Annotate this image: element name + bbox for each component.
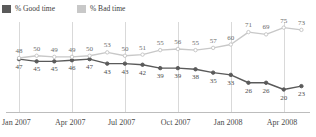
marker-bad [17, 56, 20, 59]
data-label-good-9: 39 [174, 73, 181, 80]
marker-bad [194, 48, 197, 51]
marker-bad [264, 33, 267, 36]
data-label-bad-5: 53 [104, 42, 111, 49]
chart-legend: % Good time % Bad time [2, 2, 147, 16]
marker-bad [123, 54, 126, 57]
marker-bad [247, 30, 250, 33]
marker-bad [35, 54, 38, 57]
marker-good [247, 81, 250, 84]
data-label-good-2: 45 [51, 66, 58, 73]
data-label-good-3: 46 [68, 65, 75, 72]
marker-good [300, 84, 303, 87]
data-label-bad-12: 60 [227, 35, 234, 42]
series-lines [0, 22, 316, 112]
axis-baseline [6, 112, 310, 113]
data-label-bad-8: 55 [157, 40, 164, 47]
marker-bad [211, 46, 214, 49]
legend-label-bad-time: % Bad time [90, 5, 125, 13]
data-label-bad-3: 49 [68, 47, 75, 54]
legend-label-good-time: % Good time [15, 5, 55, 13]
marker-good [282, 88, 285, 91]
data-label-good-10: 38 [192, 74, 199, 81]
x-tick-label-5: Apr 2008 [267, 118, 297, 128]
marker-bad [300, 28, 303, 31]
marker-good [35, 60, 38, 63]
x-axis: Jan 2007Apr 2007Jul 2007Oct 2007Jan 2008… [0, 118, 316, 132]
legend-item-good-time: % Good time [2, 5, 55, 13]
data-label-good-11: 35 [210, 78, 217, 85]
data-label-bad-4: 50 [86, 46, 93, 53]
plot-area: 4745454647434342393938353326262023485049… [0, 22, 316, 112]
data-label-good-16: 23 [298, 91, 305, 98]
x-tick-label-0: Jan 2007 [2, 118, 31, 128]
marker-bad [70, 55, 73, 58]
x-tick-label-1: Apr 2007 [55, 118, 85, 128]
marker-good [141, 63, 144, 66]
legend-item-bad-time: % Bad time [77, 5, 125, 13]
data-label-good-7: 42 [139, 70, 146, 77]
data-label-good-14: 26 [263, 88, 270, 95]
data-label-bad-14: 69 [263, 24, 270, 31]
line-chart: % Good time % Bad time 47454546474343423… [0, 0, 316, 137]
data-label-bad-10: 55 [192, 40, 199, 47]
marker-good [159, 66, 162, 69]
marker-bad [106, 51, 109, 54]
marker-bad [229, 43, 232, 46]
data-label-bad-6: 50 [121, 46, 128, 53]
marker-good [194, 68, 197, 71]
data-label-good-4: 47 [86, 64, 93, 71]
marker-good [106, 62, 109, 65]
data-label-bad-2: 49 [51, 47, 58, 54]
data-label-bad-0: 48 [16, 48, 23, 55]
data-label-good-5: 43 [104, 69, 111, 76]
legend-swatch-bad-time [77, 5, 86, 13]
marker-bad [176, 47, 179, 50]
x-tick-label-4: Jan 2008 [214, 118, 243, 128]
marker-good [211, 71, 214, 74]
marker-good [264, 81, 267, 84]
data-label-bad-13: 71 [245, 22, 252, 29]
marker-bad [53, 55, 56, 58]
data-label-bad-1: 50 [33, 46, 40, 53]
marker-good [176, 66, 179, 69]
marker-bad [141, 53, 144, 56]
data-label-bad-15: 75 [280, 18, 287, 25]
data-label-good-13: 26 [245, 88, 252, 95]
data-label-good-15: 20 [280, 95, 287, 102]
data-label-bad-9: 56 [174, 39, 181, 46]
data-label-bad-11: 57 [210, 38, 217, 45]
data-label-bad-16: 73 [298, 20, 305, 27]
data-label-good-0: 47 [16, 64, 23, 71]
legend-swatch-good-time [2, 5, 11, 13]
data-label-good-12: 33 [227, 80, 234, 87]
x-tick-label-2: Jul 2007 [108, 118, 135, 128]
data-label-good-6: 43 [121, 69, 128, 76]
marker-good [123, 62, 126, 65]
marker-good [53, 60, 56, 63]
marker-bad [282, 26, 285, 29]
marker-bad [159, 48, 162, 51]
data-label-bad-7: 51 [139, 45, 146, 52]
data-label-good-8: 39 [157, 73, 164, 80]
marker-good [229, 73, 232, 76]
x-tick-label-3: Oct 2007 [161, 118, 191, 128]
data-label-good-1: 45 [33, 66, 40, 73]
marker-bad [88, 54, 91, 57]
